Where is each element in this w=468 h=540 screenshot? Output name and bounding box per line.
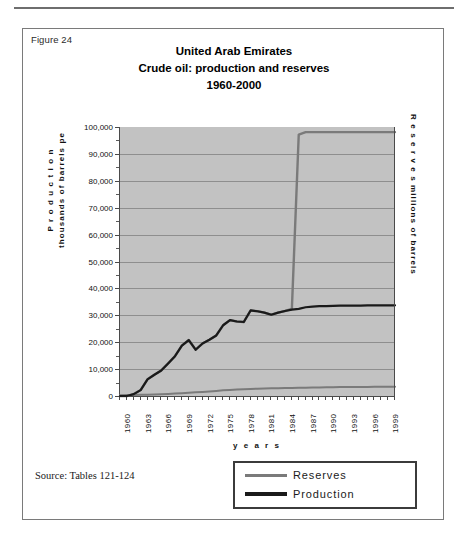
x-axis-tick-label: 1978 [247,414,256,433]
legend-swatch-production [245,492,287,496]
x-axis-tick [215,397,216,400]
x-axis-tick-label: 1999 [391,414,400,433]
x-axis-tick [373,397,374,400]
y-axis-left-title-line-1: P r o d u c t i o n [45,97,56,283]
x-axis-tick-label: 1966 [164,414,173,433]
legend-item-production: Production [245,488,355,500]
series-canvas [120,127,395,396]
x-axis-tick [270,397,271,400]
y-axis-tick-label: 60,000 [89,230,113,239]
x-axis-tick-label: 1972 [206,414,215,433]
x-axis-tick [181,397,182,400]
x-axis-tick-label: 1990 [329,414,338,433]
x-axis-tick [160,397,161,400]
y-axis-right-title-line-1: R e s e r v e s [409,114,418,182]
y-axis-tick-label: 50,000 [89,257,113,266]
x-axis-tick-label: 1969 [185,414,194,433]
plot-area [119,127,395,397]
chart-legend: Reserves Production [233,461,417,509]
series-line-production [120,305,395,396]
x-axis-tick [305,397,306,400]
x-axis-tick [367,397,368,400]
y-axis-tick-label: 80,000 [89,176,113,185]
y-axis-tick-label: 10,000 [89,365,113,374]
y-axis-right-line [394,127,395,397]
x-axis-tick [174,397,175,400]
x-axis-tick [318,397,319,400]
x-axis-tick [353,397,354,400]
source-note: Source: Tables 121-124 [35,470,134,481]
x-axis-tick [222,397,223,400]
x-axis-tick [284,397,285,400]
y-axis-tick-label: 100,000 [84,123,113,132]
x-axis-tick [263,397,264,400]
x-axis-tick [312,397,313,400]
x-axis-tick [236,397,237,400]
x-axis-tick [167,397,168,400]
x-axis-title: y e a r s [119,441,395,450]
x-axis-tick [387,397,388,400]
x-axis-tick [291,397,292,400]
x-axis-tick-label: 1963 [144,414,153,433]
y-axis-right-title: R e s e r v e s millions of barrels [408,102,419,288]
x-axis-tick [126,397,127,400]
x-axis-tick [250,397,251,400]
x-axis-tick [360,397,361,400]
x-axis-tick [188,397,189,400]
legend-swatch-reserves [245,474,287,477]
legend-label-reserves: Reserves [293,469,347,481]
x-axis-tick [140,397,141,400]
x-axis-tick [153,397,154,400]
y-axis-labels: 100,00090,00080,00070,00060,00050,00040,… [63,127,117,396]
x-axis-tick-label: 1975 [226,414,235,433]
x-axis-tick-label: 1984 [288,414,297,433]
page-top-rule [14,7,454,9]
x-axis-labels: 1960196319661969197219751978198119841987… [119,399,395,441]
x-axis-tick [195,397,196,400]
series-line-reserves-baseline [120,387,395,396]
x-axis-tick [208,397,209,400]
series-line-reserves [120,132,395,396]
y-axis-tick-label: 40,000 [89,284,113,293]
x-axis-tick [332,397,333,400]
x-axis-tick [298,397,299,400]
y-axis-tick-label: 30,000 [89,311,113,320]
x-axis-tick [380,397,381,400]
y-axis-tick-label: 90,000 [89,149,113,158]
x-axis-tick [202,397,203,400]
x-axis-tick [119,397,120,400]
legend-label-production: Production [293,488,355,500]
x-axis-tick-label: 1987 [309,414,318,433]
x-axis-tick [229,397,230,400]
x-axis-tick-label: 1996 [371,414,380,433]
x-axis-tick [346,397,347,400]
y-axis-tick-label: 0 [109,392,113,401]
legend-item-reserves: Reserves [245,469,347,481]
x-axis-tick [277,397,278,400]
x-axis-tick [339,397,340,400]
x-axis-tick [257,397,258,400]
x-axis-tick [133,397,134,400]
x-axis-tick-label: 1960 [123,414,132,433]
chart-body: P r o d u c t i o n thousands of barrels… [23,29,445,521]
y-axis-right-title-line-2: millions of barrels [409,185,418,275]
x-axis-tick-label: 1981 [267,414,276,433]
x-axis-tick-label: 1993 [350,414,359,433]
x-axis-tick [325,397,326,400]
x-axis-tick [394,397,395,400]
x-axis-tick [147,397,148,400]
y-axis-tick-label: 70,000 [89,203,113,212]
x-axis-tick [243,397,244,400]
y-axis-tick-label: 20,000 [89,338,113,347]
figure-frame: Figure 24 United Arab Emirates Crude oil… [22,28,444,520]
